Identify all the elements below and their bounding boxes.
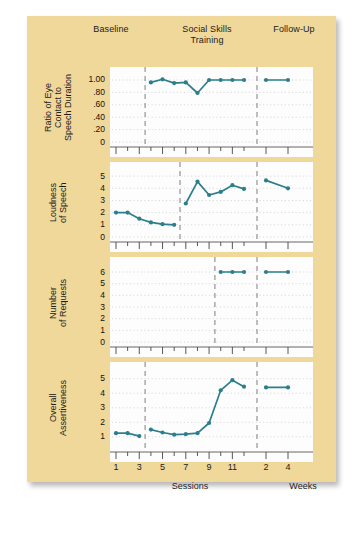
- y-tick-label: 5: [79, 279, 105, 288]
- y-axis-title-line: Ratio of Eye: [43, 65, 53, 150]
- phase-label-training-line2: Training: [159, 35, 255, 46]
- y-tick-label: 2: [79, 208, 105, 217]
- y-axis-title-line: Number: [48, 255, 58, 350]
- y-tick-label: 5: [79, 374, 105, 383]
- y-tick-label: 4: [79, 389, 105, 398]
- x-axis-caption-sessions: Sessions: [145, 481, 235, 491]
- axis-loudness: [110, 241, 313, 252]
- plot-loudness: [110, 162, 313, 241]
- y-tick-label: 0: [79, 138, 105, 147]
- x-tick-label-session: 1: [109, 462, 123, 472]
- axis-assertiveness: [110, 451, 313, 462]
- phase-label-followup: Follow-Up: [259, 24, 329, 35]
- plot-eye-contact: [110, 67, 313, 146]
- plot-requests: [110, 257, 313, 346]
- x-tick-label-session: 7: [179, 462, 193, 472]
- panel-eye-contact: [110, 67, 313, 146]
- phase-label-baseline: Baseline: [71, 24, 151, 35]
- panel-eye-contact-axis: [110, 146, 313, 157]
- x-tick-label-session: 5: [156, 462, 170, 472]
- y-tick-label: 5: [79, 172, 105, 181]
- y-axis-title-line: Loudness: [48, 160, 58, 245]
- x-tick-label-session: 3: [132, 462, 146, 472]
- x-tick-label-session: 11: [225, 462, 239, 472]
- x-tick-label-session: 9: [202, 462, 216, 472]
- y-tick-label: 3: [79, 196, 105, 205]
- x-axis-caption-weeks: Weeks: [277, 481, 329, 491]
- panel-loudness-axis: [110, 241, 313, 252]
- y-tick-label: 1.00: [79, 75, 105, 84]
- phase-label-training: Social Skills Training: [159, 24, 255, 45]
- y-tick-label: 4: [79, 184, 105, 193]
- panel-assertiveness-axis: [110, 451, 313, 462]
- y-tick-label: .60: [79, 100, 105, 109]
- x-tick-label-week: 4: [281, 462, 295, 472]
- y-axis-title-line: Overall: [48, 360, 58, 455]
- y-axis-title-eye-contact: Ratio of EyeContact toSpeech Duration: [43, 65, 76, 150]
- y-tick-label: 1: [79, 432, 105, 441]
- y-tick-label: .20: [79, 125, 105, 134]
- y-tick-label: 0: [79, 233, 105, 242]
- y-axis-title-assertiveness: OverallAssertiveness: [48, 360, 70, 455]
- y-tick-label: 4: [79, 291, 105, 300]
- y-tick-label: 1: [79, 326, 105, 335]
- y-tick-label: .40: [79, 113, 105, 122]
- y-tick-label: 2: [79, 418, 105, 427]
- panel-assertiveness: [110, 362, 313, 451]
- y-axis-title-requests: Numberof Requests: [48, 255, 70, 350]
- y-tick-label: 2: [79, 314, 105, 323]
- y-tick-label: 6: [79, 268, 105, 277]
- y-tick-label: .80: [79, 88, 105, 97]
- y-tick-label: 3: [79, 303, 105, 312]
- axis-requests: [110, 346, 313, 357]
- y-tick-label: 3: [79, 403, 105, 412]
- figure-card: Baseline Social Skills Training Follow-U…: [27, 16, 336, 482]
- y-axis-title-line: Assertiveness: [58, 360, 68, 455]
- panel-requests-axis: [110, 346, 313, 357]
- y-axis-title-line: Contact to: [53, 65, 63, 150]
- y-axis-title-line: of Requests: [58, 255, 68, 350]
- y-axis-title-line: of Speech: [58, 160, 68, 245]
- panel-requests: [110, 257, 313, 346]
- x-tick-label-week: 2: [259, 462, 273, 472]
- axis-eye-contact: [110, 146, 313, 157]
- plot-assertiveness: [110, 362, 313, 451]
- phase-label-training-line1: Social Skills: [159, 24, 255, 35]
- panel-loudness: [110, 162, 313, 241]
- y-tick-label: 0: [79, 338, 105, 347]
- y-tick-label: 1: [79, 220, 105, 229]
- y-axis-title-line: Speech Duration: [63, 65, 73, 150]
- y-axis-title-loudness: Loudnessof Speech: [48, 160, 70, 245]
